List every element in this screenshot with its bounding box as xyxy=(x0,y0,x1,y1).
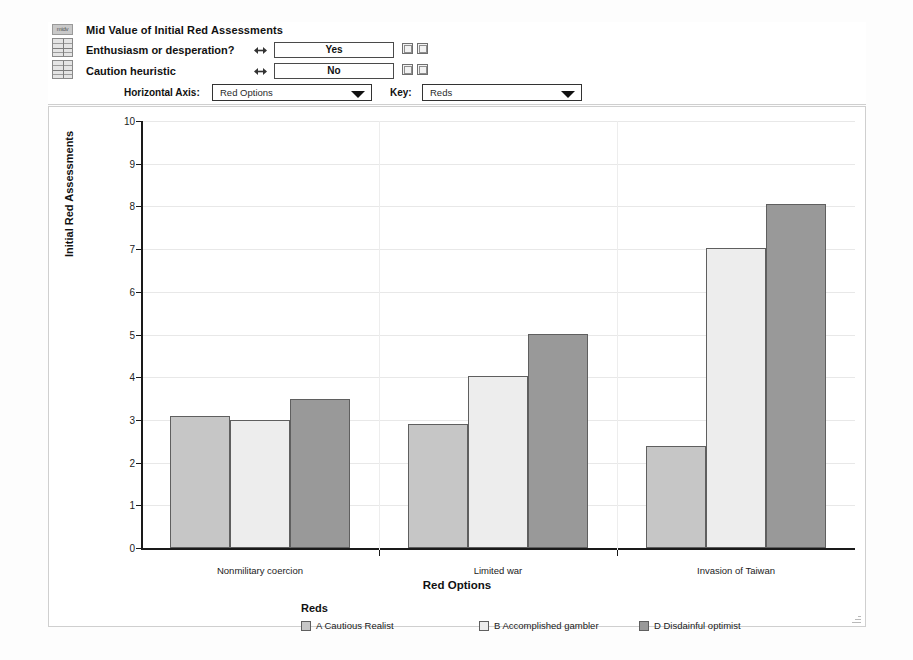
x-axis-line xyxy=(141,548,855,550)
gridline-y xyxy=(143,121,855,122)
y-axis-tick-label: 3 xyxy=(111,420,135,421)
plot-area: 012345678910Nonmilitary coercionLimited … xyxy=(141,121,855,550)
parameter-label-enthusiasm: Enthusiasm or desperation? xyxy=(86,44,246,56)
application-window: midv Mid Value of Initial Red Assessment… xyxy=(0,0,913,660)
reset-button-caution[interactable] xyxy=(417,64,428,75)
bar[interactable] xyxy=(230,420,290,548)
y-axis-tick xyxy=(136,335,141,336)
key-select[interactable]: Reds xyxy=(422,84,582,101)
reset-button-enthusiasm[interactable] xyxy=(417,43,428,54)
x-axis-category-label: Nonmilitary coercion xyxy=(141,565,379,576)
panel-icon-column: midv xyxy=(52,24,78,98)
panel-divider xyxy=(48,104,866,105)
gridline-y xyxy=(143,164,855,165)
chart-frame: Initial Red Assessments 012345678910Nonm… xyxy=(48,106,866,627)
y-axis-tick-label: 2 xyxy=(111,463,135,464)
bar[interactable] xyxy=(528,334,588,548)
y-axis-tick xyxy=(136,292,141,293)
y-axis-tick-label: 8 xyxy=(111,206,135,207)
chart-legend: Reds A Cautious RealistB Accomplished ga… xyxy=(249,602,749,638)
x-axis-category-label: Limited war xyxy=(379,565,617,576)
key-value: Reds xyxy=(430,87,452,98)
y-axis-tick-label: 9 xyxy=(111,164,135,165)
y-axis-tick xyxy=(136,206,141,207)
left-right-spinner-icon-enthusiasm[interactable] xyxy=(254,44,267,57)
horizontal-axis-label: Horizontal Axis: xyxy=(124,87,200,98)
y-axis-tick xyxy=(136,164,141,165)
y-axis-tick-label: 1 xyxy=(111,505,135,506)
y-axis-tick xyxy=(136,505,141,506)
legend-label: A Cautious Realist xyxy=(316,620,394,632)
y-axis-tick-label: 0 xyxy=(111,548,135,549)
grid-icon-enthusiasm[interactable] xyxy=(52,38,73,57)
y-axis-tick xyxy=(136,548,141,549)
y-axis-tick xyxy=(136,420,141,421)
horizontal-axis-select[interactable]: Red Options xyxy=(212,84,372,101)
bar[interactable] xyxy=(706,248,766,548)
left-right-spinner-icon-caution[interactable] xyxy=(254,65,267,78)
grid-icon-caution[interactable] xyxy=(52,60,73,79)
legend-swatch xyxy=(301,621,311,631)
key-label: Key: xyxy=(390,87,412,98)
gridline-x xyxy=(617,121,618,550)
legend-title: Reds xyxy=(301,602,328,614)
gridline-x xyxy=(379,121,380,550)
bar[interactable] xyxy=(646,446,706,548)
horizontal-axis-value: Red Options xyxy=(220,87,273,98)
x-axis-category-label: Invasion of Taiwan xyxy=(617,565,855,576)
bar[interactable] xyxy=(408,424,468,548)
y-axis-tick xyxy=(136,249,141,250)
selector-row: Horizontal Axis: Red Options Key: Reds xyxy=(86,84,866,102)
page-title: Mid Value of Initial Red Assessments xyxy=(86,24,283,36)
link-button-caution[interactable] xyxy=(402,64,413,75)
parameter-buttons-caution xyxy=(402,64,442,78)
bar[interactable] xyxy=(290,399,350,548)
y-axis-tick xyxy=(136,377,141,378)
control-panel: midv Mid Value of Initial Red Assessment… xyxy=(48,22,866,104)
parameter-buttons-enthusiasm xyxy=(402,43,442,57)
gridline-y xyxy=(143,206,855,207)
x-axis-title: Red Options xyxy=(49,579,865,591)
legend-label: D Disdainful optimist xyxy=(654,620,741,632)
y-axis-tick-label: 4 xyxy=(111,377,135,378)
bar[interactable] xyxy=(468,376,528,548)
link-button-enthusiasm[interactable] xyxy=(402,43,413,54)
parameter-value-enthusiasm[interactable]: Yes xyxy=(274,42,394,58)
bar[interactable] xyxy=(766,204,826,548)
y-axis-tick-label: 6 xyxy=(111,292,135,293)
resize-handle-icon[interactable] xyxy=(852,614,861,623)
parameter-label-caution: Caution heuristic xyxy=(86,65,246,77)
y-axis-tick xyxy=(136,121,141,122)
y-axis-tick xyxy=(136,463,141,464)
panel-title-icon: midv xyxy=(52,24,73,35)
chevron-down-icon-key xyxy=(561,91,575,98)
y-axis-title: Initial Red Assessments xyxy=(63,131,75,257)
legend-label: B Accomplished gambler xyxy=(494,620,599,632)
y-axis-tick-label: 10 xyxy=(111,121,135,122)
chevron-down-icon-horizontal-axis xyxy=(351,91,365,98)
parameter-value-caution[interactable]: No xyxy=(274,63,394,79)
y-axis-tick-label: 7 xyxy=(111,249,135,250)
legend-swatch xyxy=(479,621,489,631)
legend-swatch xyxy=(639,621,649,631)
y-axis-line xyxy=(141,121,143,550)
x-axis-tick xyxy=(379,550,380,556)
y-axis-tick-label: 5 xyxy=(111,335,135,336)
bar[interactable] xyxy=(170,416,230,548)
x-axis-tick xyxy=(617,550,618,556)
